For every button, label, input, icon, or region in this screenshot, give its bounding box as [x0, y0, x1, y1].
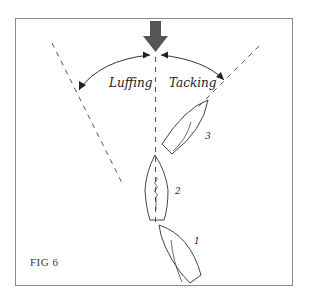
boat-2-label: 2: [174, 186, 181, 196]
luffing-label: Luffing: [108, 76, 153, 90]
tacking-label: Tacking: [169, 76, 217, 90]
boat-2: [145, 155, 168, 220]
figure-caption: FIG 6: [30, 256, 58, 268]
boat-1: [159, 225, 201, 283]
boat-3-label: 3: [205, 131, 211, 141]
boat-1-label: 1: [194, 236, 200, 246]
wind-arrow-icon: [143, 21, 168, 52]
boat-3: [162, 100, 208, 154]
